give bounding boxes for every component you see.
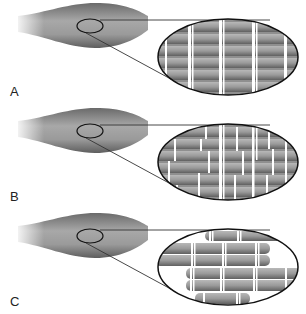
panel-c: C xyxy=(0,210,306,314)
panel-label: C xyxy=(10,294,19,309)
panel-a: A xyxy=(0,0,306,105)
aligned-fibers xyxy=(150,15,306,100)
panel-c-illustration xyxy=(0,210,306,314)
panel-b-illustration xyxy=(0,105,306,210)
muscle-belly xyxy=(14,108,148,153)
irregular-fibers xyxy=(150,120,306,205)
muscle-belly xyxy=(14,213,148,258)
panel-label: B xyxy=(10,189,19,204)
panel-label: A xyxy=(10,84,19,99)
panel-b: B xyxy=(0,105,306,210)
separated-fibers xyxy=(150,225,306,310)
muscle-belly xyxy=(14,3,148,48)
panel-a-illustration xyxy=(0,0,306,105)
